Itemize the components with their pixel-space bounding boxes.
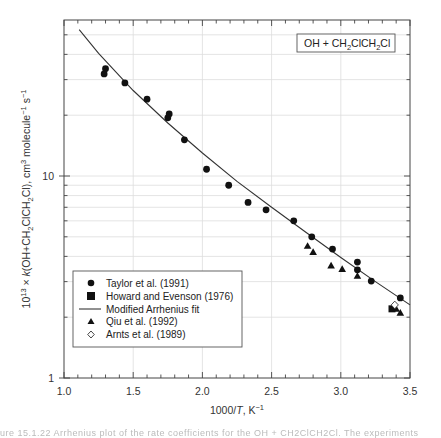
x-tick-label: 1.5 (126, 385, 141, 397)
legend-label: Qiu et al. (1992) (106, 316, 178, 327)
x-tick-label: 3.0 (333, 385, 348, 397)
data-point-circle (308, 233, 315, 240)
y-axis-tick-labels: 1 10 (42, 170, 54, 384)
data-point-circle (329, 246, 336, 253)
reaction-annotation: OH + CH2ClCH2Cl (297, 34, 395, 52)
x-tick-label: 2.5 (264, 385, 279, 397)
data-point-triangle (327, 262, 335, 269)
data-point-triangle (304, 242, 312, 249)
y-axis-title: 1013 × k(OH+CH2ClCH2Cl), cm3 molecule−1 … (19, 90, 35, 309)
data-point-triangle (338, 265, 346, 272)
filled-circle-icon (88, 280, 95, 287)
data-point-circle (245, 199, 252, 206)
data-point-triangle (309, 248, 317, 255)
legend: Taylor et al. (1991) Howard and Evenson … (73, 271, 242, 347)
y-tick-label: 10 (42, 170, 54, 182)
data-point-circle (354, 259, 361, 266)
data-point-circle (121, 79, 128, 86)
x-axis-tick-labels: 1.0 1.5 2.0 2.5 3.0 3.5 (57, 385, 418, 397)
legend-label: Arnts et al. (1989) (106, 329, 185, 340)
data-point-circle (397, 295, 404, 302)
data-point-circle (181, 136, 188, 143)
data-point-triangle (354, 272, 362, 279)
x-tick-label: 3.5 (403, 385, 418, 397)
data-point-circle (263, 206, 270, 213)
figure-caption: ure 15.1.22 Arrhenius plot of the rate c… (0, 428, 441, 438)
y-tick-label: 1 (48, 372, 54, 384)
x-axis-title: 1000/T, K−1 (210, 403, 264, 416)
filled-square-icon (87, 292, 95, 300)
data-point-circle (102, 65, 109, 72)
x-tick-label: 1.0 (57, 385, 72, 397)
data-point-circle (144, 96, 151, 103)
x-tick-label: 2.0 (195, 385, 210, 397)
data-point-circle (225, 182, 232, 189)
arrhenius-chart: 1.0 1.5 2.0 2.5 3.0 3.5 1 10 1000/T, K−1… (0, 0, 441, 438)
data-point-circle (368, 278, 375, 285)
legend-label: Howard and Evenson (1976) (106, 291, 233, 302)
data-point-circle (166, 110, 173, 117)
data-point-circle (290, 217, 297, 224)
legend-label: Modified Arrhenius fit (106, 304, 200, 315)
legend-label: Taylor et al. (1991) (106, 278, 189, 289)
data-point-circle (203, 166, 210, 173)
